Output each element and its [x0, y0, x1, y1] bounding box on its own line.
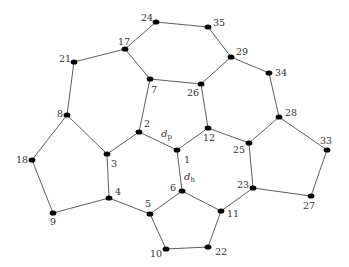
node-10	[163, 246, 170, 251]
edge-6-11	[182, 191, 221, 211]
node-1	[174, 147, 181, 152]
node-26	[198, 81, 205, 86]
edge-6-5	[150, 191, 182, 214]
node-label-21: 21	[59, 53, 71, 64]
node-label-18: 18	[16, 154, 28, 165]
edge-23-27	[253, 188, 311, 196]
node-7	[147, 76, 154, 81]
node-2	[136, 129, 143, 134]
edges-layer	[32, 22, 327, 249]
edge-34-28	[269, 73, 279, 117]
edge-17-21	[74, 49, 125, 62]
node-label-4: 4	[115, 186, 121, 197]
edge-8-18	[32, 115, 67, 160]
node-label-35: 35	[213, 17, 225, 28]
node-label-2: 2	[144, 118, 150, 129]
edge-35-29	[208, 27, 231, 57]
node-label-5: 5	[145, 198, 151, 209]
node-label-17: 17	[118, 36, 130, 47]
edge-28-25	[249, 117, 279, 143]
edge-9-4	[53, 198, 109, 213]
edge-24-35	[156, 22, 208, 27]
node-25	[246, 140, 253, 145]
edge-11-22	[208, 211, 221, 247]
node-label-24: 24	[141, 12, 153, 23]
node-label-25: 25	[233, 144, 245, 155]
edge-17-7	[125, 49, 150, 79]
molecular-graph-diagram: 1234567891011121718212223242526272829333…	[0, 0, 349, 267]
edge-26-12	[201, 84, 208, 128]
edge-1-6	[177, 150, 182, 191]
edge-3-4	[107, 154, 109, 198]
node-22	[205, 244, 212, 249]
node-9	[50, 210, 57, 215]
node-label-9: 9	[50, 216, 56, 227]
node-labels-layer: 1234567891011121718212223242526272829333…	[16, 12, 332, 259]
node-label-7: 7	[151, 84, 157, 95]
annotation-dh: dh	[184, 171, 195, 184]
edge-29-26	[201, 57, 231, 84]
node-3	[104, 151, 111, 156]
node-label-22: 22	[215, 246, 227, 257]
edge-21-8	[67, 62, 74, 115]
node-label-6: 6	[170, 182, 176, 193]
node-24	[153, 19, 160, 24]
node-label-28: 28	[285, 107, 297, 118]
node-29	[228, 54, 235, 59]
node-label-27: 27	[303, 200, 315, 211]
edge-25-23	[249, 143, 253, 188]
node-label-3: 3	[111, 158, 117, 169]
edge-5-10	[150, 214, 166, 249]
node-label-29: 29	[236, 46, 248, 57]
node-label-33: 33	[320, 135, 332, 146]
node-label-34: 34	[275, 67, 287, 78]
node-5	[147, 211, 154, 216]
annotation-dp: dp	[161, 128, 172, 141]
edge-10-22	[166, 247, 208, 249]
node-12	[205, 125, 212, 130]
node-33	[324, 147, 331, 152]
node-label-10: 10	[150, 248, 162, 259]
node-18	[29, 157, 36, 162]
bond-annotations-layer: dpdh	[161, 128, 195, 184]
edge-8-3	[67, 115, 107, 154]
edge-4-5	[109, 198, 150, 214]
node-23	[250, 185, 257, 190]
node-label-12: 12	[203, 132, 215, 143]
edge-33-27	[311, 150, 327, 196]
node-21	[71, 59, 78, 64]
node-label-23: 23	[237, 179, 249, 190]
edge-18-9	[32, 160, 53, 213]
node-11	[218, 208, 225, 213]
edge-29-34	[231, 57, 269, 73]
node-27	[308, 193, 315, 198]
node-label-11: 11	[227, 208, 239, 219]
node-6	[179, 188, 186, 193]
node-17	[122, 46, 129, 51]
node-label-8: 8	[57, 108, 63, 119]
node-35	[205, 24, 212, 29]
nodes-layer	[29, 19, 331, 251]
node-4	[106, 195, 113, 200]
edge-2-3	[107, 132, 139, 154]
node-34	[266, 70, 273, 75]
node-28	[276, 114, 283, 119]
node-8	[64, 112, 71, 117]
node-label-1: 1	[184, 154, 190, 165]
edge-7-26	[150, 79, 201, 84]
node-label-26: 26	[187, 87, 199, 98]
